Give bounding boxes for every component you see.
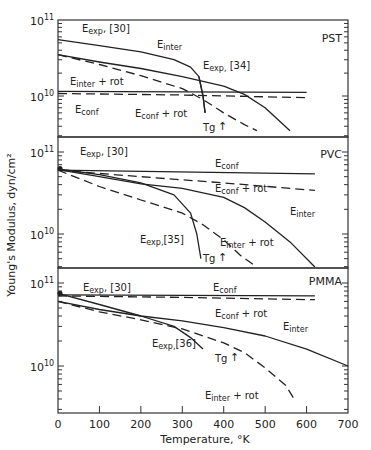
curve-label: Einter	[290, 206, 316, 219]
y-tick-label-1e11: 1011	[30, 276, 54, 291]
x-tick-label: 400	[213, 418, 234, 431]
curve-label: Eexp, [34]	[203, 60, 250, 73]
y-tick-label-1e10: 1010	[30, 89, 54, 104]
tg-arrow-icon: ↑	[230, 351, 239, 364]
x-tick-label: 500	[255, 418, 276, 431]
y-tick-label-1e11: 1011	[30, 13, 54, 28]
curve-label: Eexp, [30]	[80, 146, 128, 159]
curve-label: Econf	[215, 158, 239, 171]
curve-label: Eexp,[35]	[140, 234, 184, 247]
x-tick-label: 200	[130, 418, 151, 431]
curve-label: Econf + rot	[135, 108, 187, 121]
curve-label: Eexp,[36]	[152, 338, 196, 351]
curve-e-inter	[58, 170, 315, 267]
y-tick-label-1e10: 1010	[30, 359, 54, 374]
y-tick-label-1e11: 1011	[30, 145, 54, 160]
curve-label: Econf	[75, 104, 99, 117]
curve-label: Einter	[157, 39, 183, 52]
curve-label: Eexp, [30]	[82, 23, 130, 36]
curves	[58, 40, 349, 399]
tg-arrow-icon: ↑	[218, 120, 227, 133]
x-axis-label: Temperature, °K	[159, 433, 250, 446]
panel-name: PVC	[320, 148, 342, 161]
curve-label: Einter + rot	[70, 76, 124, 89]
curve-label: Einter	[283, 321, 309, 334]
curve-label: Eexp, [30]	[83, 282, 131, 295]
tg-label: Tg	[202, 253, 215, 264]
youngs-modulus-figure: 10111010PST10111010PVC10111010PMMA010020…	[0, 0, 371, 450]
curve-e-conf-rot	[58, 94, 307, 98]
curve-e-conf	[58, 91, 307, 92]
panel-name: PMMA	[309, 275, 343, 288]
y-tick-label-1e10: 1010	[30, 227, 54, 242]
curve-e-conf-rot	[58, 296, 315, 300]
x-tick-label: 700	[338, 418, 359, 431]
curve-e-conf	[58, 170, 315, 174]
y-axis-label: Young's Modulus, dyn/cm²	[5, 153, 18, 297]
x-tick-label: 100	[89, 418, 110, 431]
curve-label: Econf + rot	[215, 308, 267, 321]
tg-label: Tg	[202, 122, 215, 133]
tg-arrow-icon: ↑	[218, 251, 227, 264]
x-tick-label: 0	[55, 418, 62, 431]
x-tick-label: 300	[172, 418, 193, 431]
curve-label: Einter + rot	[220, 237, 274, 250]
tg-label: Tg	[214, 353, 227, 364]
curve-label: Einter + rot	[205, 390, 259, 403]
curve-label: Econf	[213, 282, 237, 295]
curve-label: Econf + rot	[215, 183, 267, 196]
x-tick-label: 600	[296, 418, 317, 431]
panel-name: PST	[322, 32, 343, 45]
